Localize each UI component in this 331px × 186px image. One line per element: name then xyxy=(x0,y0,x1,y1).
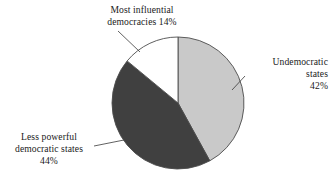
slice-label-line: democracies 14% xyxy=(86,16,198,28)
leader-line-top xyxy=(118,31,140,52)
slice-label-less-powerful-democratic-states: Less powerful democratic states 44% xyxy=(4,131,94,168)
slice-label-line: Most influential xyxy=(86,4,198,16)
leader-line-left xyxy=(94,140,124,146)
slice-label-line: states xyxy=(248,68,328,80)
pie-chart-figure: Most influential democracies 14% Undemoc… xyxy=(0,0,331,186)
slice-label-undemocratic-states: Undemocratic states 42% xyxy=(248,56,328,93)
slice-label-most-influential-democracies: Most influential democracies 14% xyxy=(86,4,198,28)
slice-label-value: 44% xyxy=(4,155,94,167)
slice-label-line: Undemocratic xyxy=(248,56,328,68)
slice-label-value: 42% xyxy=(248,80,328,92)
slice-label-line: democratic states xyxy=(4,143,94,155)
slice-label-line: Less powerful xyxy=(4,131,94,143)
